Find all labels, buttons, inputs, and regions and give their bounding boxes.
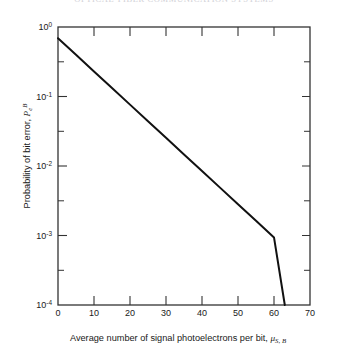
x-axis-title: Average number of signal photoelectrons … (38, 333, 318, 344)
y-tick-label-0: 100 (18, 21, 52, 32)
x-tick-label-7: 70 (295, 308, 325, 318)
x-tick-label-3: 30 (151, 308, 181, 318)
y-axis-title: Probability of bit error, PeB (21, 66, 33, 246)
x-tick-label-0: 0 (43, 308, 73, 318)
plot-frame (58, 27, 310, 305)
x-tick-label-6: 60 (259, 308, 289, 318)
x-tick-label-4: 40 (187, 308, 217, 318)
plot-area (0, 0, 348, 355)
x-tick-label-1: 10 (79, 308, 109, 318)
figure-container: OPTICAL-FIBER COMMUNICATION SYSTEMS (0, 0, 348, 355)
x-tick-label-2: 20 (115, 308, 145, 318)
x-tick-label-5: 50 (223, 308, 253, 318)
